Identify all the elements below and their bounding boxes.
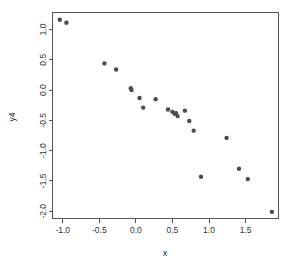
data-point bbox=[224, 136, 228, 140]
y-tick-label: 1.0 bbox=[39, 23, 49, 35]
plot-canvas: -1.0-0.50.00.51.01.5 1.00.50.0-0.5-1.0-1… bbox=[0, 0, 295, 266]
data-point bbox=[187, 119, 191, 123]
data-point bbox=[175, 114, 179, 118]
data-point bbox=[191, 128, 195, 132]
data-point bbox=[183, 108, 187, 112]
data-point bbox=[58, 18, 62, 22]
data-point bbox=[137, 96, 141, 100]
data-point bbox=[129, 88, 133, 92]
y-tick-label: 0.0 bbox=[39, 84, 49, 96]
data-point bbox=[270, 210, 274, 214]
x-tick-label: 0.5 bbox=[167, 225, 179, 235]
y-tick-label: -1.0 bbox=[39, 143, 49, 158]
scatter-plot-figure: -1.0-0.50.00.51.01.5 1.00.50.0-0.5-1.0-1… bbox=[0, 0, 295, 266]
y-tick-label: -0.5 bbox=[39, 113, 49, 128]
x-tick-label: 1.5 bbox=[240, 225, 252, 235]
data-point bbox=[141, 105, 145, 109]
data-point bbox=[166, 107, 170, 111]
x-tick-label: 0.0 bbox=[130, 225, 142, 235]
x-tick-label: 1.0 bbox=[203, 225, 215, 235]
data-point bbox=[102, 61, 106, 65]
data-point bbox=[237, 167, 241, 171]
x-tick-label: -0.5 bbox=[92, 225, 107, 235]
data-point bbox=[114, 67, 118, 71]
x-tick-label: -1.0 bbox=[55, 225, 70, 235]
data-point bbox=[153, 97, 157, 101]
data-point bbox=[199, 174, 203, 178]
y-tick-label: 0.5 bbox=[39, 54, 49, 66]
data-point bbox=[64, 21, 68, 25]
data-point bbox=[246, 177, 250, 181]
y-tick-label: -1.5 bbox=[39, 173, 49, 188]
y-tick-label: -2.0 bbox=[39, 204, 49, 219]
y-axis-label: y4 bbox=[7, 112, 17, 121]
